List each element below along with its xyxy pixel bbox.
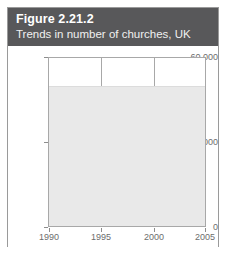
x-tick-label-1990: 1990 bbox=[29, 232, 69, 242]
figure-number-label: Figure 2.21.2 bbox=[16, 11, 218, 27]
figure-header: Figure 2.21.2 Trends in number of church… bbox=[8, 8, 218, 46]
area-series-churches bbox=[49, 86, 205, 226]
x-tick-label-2005: 2005 bbox=[185, 232, 225, 242]
x-tick-label-2000: 2000 bbox=[134, 232, 174, 242]
y-tick-mark-0 bbox=[44, 227, 48, 228]
x-tick-label-1995: 1995 bbox=[81, 232, 121, 242]
plot-frame bbox=[48, 57, 206, 227]
chart-area: 60,000 30,000 0 1990 1995 2000 2005 bbox=[8, 46, 218, 247]
figure-container: Figure 2.21.2 Trends in number of church… bbox=[7, 7, 219, 247]
figure-subtitle-label: Trends in number of churches, UK bbox=[16, 27, 218, 42]
